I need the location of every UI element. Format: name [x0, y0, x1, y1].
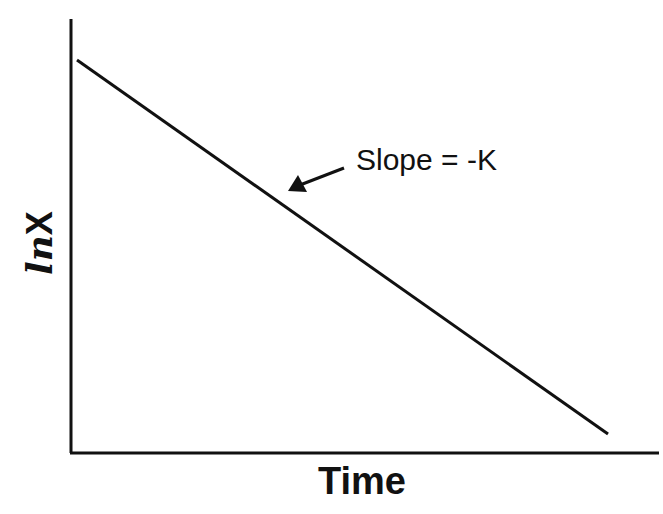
y-axis-label-fn: ln	[18, 235, 60, 275]
x-axis-label: Time	[318, 460, 406, 503]
y-axis-label-var: X	[19, 211, 60, 235]
decay-line	[77, 60, 608, 434]
arrow-icon	[288, 168, 344, 192]
chart-canvas	[0, 0, 663, 514]
y-axis-label: lnX	[18, 211, 61, 275]
slope-annotation: Slope = -K	[356, 143, 497, 177]
